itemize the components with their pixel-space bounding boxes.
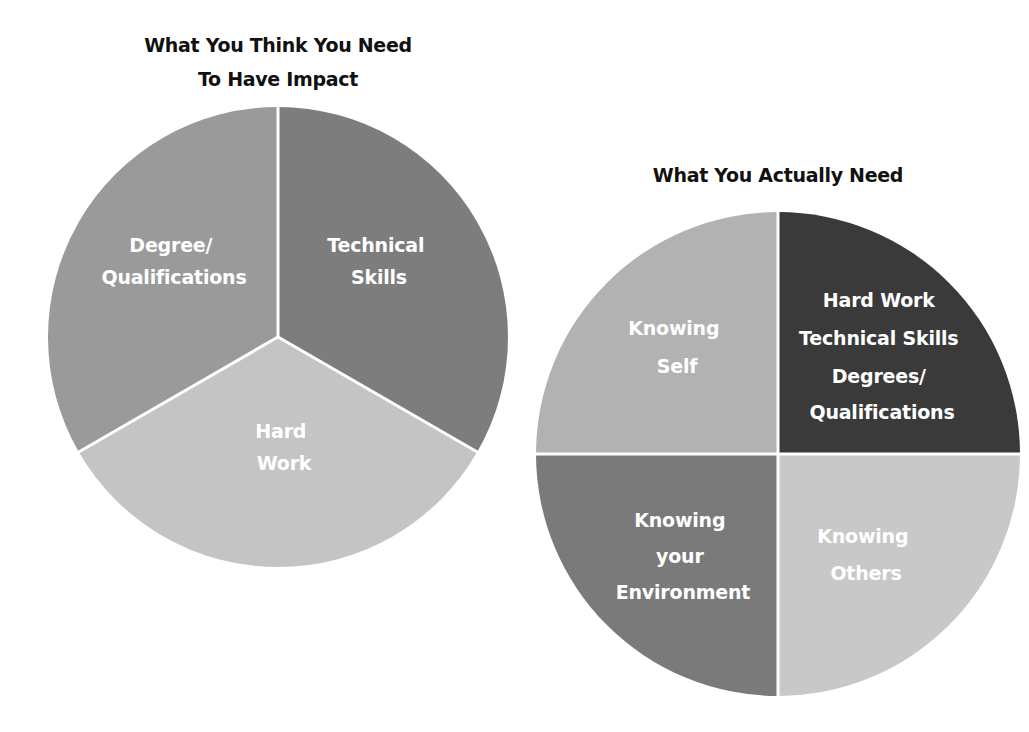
right-pie-chart: Hard Work Technical Skills Degrees/ Qual… [534,210,1022,698]
slice-knowing-environment [536,454,778,696]
left-pie-chart: Technical Skills Hard Work Degree/ Quali… [48,105,508,567]
pie-charts-canvas: Technical Skills Hard Work Degree/ Quali… [0,0,1029,732]
